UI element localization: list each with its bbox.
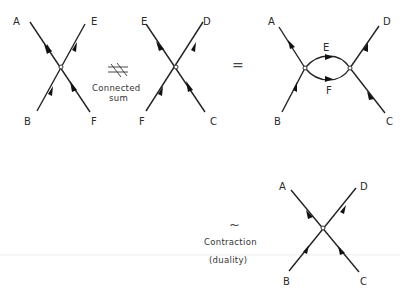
arrow-icon [325, 54, 333, 60]
contracted-vertex-diagram: A D B C [279, 181, 368, 287]
label-a: A [268, 16, 275, 27]
label-f: F [91, 116, 97, 127]
label-f: F [139, 116, 145, 127]
equals-sign: = [232, 57, 244, 73]
connected-sum-operator: Connected sum [92, 63, 140, 103]
vertex-node [303, 66, 307, 70]
arrow-icon [186, 81, 193, 92]
arrow-icon [191, 42, 196, 52]
label-d: D [383, 16, 391, 27]
vertex-diagram-1: A E B F [13, 16, 97, 127]
tilde-sign: ~ [229, 217, 240, 232]
vertex-node [348, 66, 352, 70]
connected-sum-label: Connected [92, 83, 140, 93]
label-e: E [91, 16, 97, 27]
label-a: A [279, 181, 286, 192]
arrow-icon [367, 91, 374, 100]
label-e: E [141, 16, 147, 27]
arrow-icon [288, 40, 295, 49]
duality-label: (duality) [209, 255, 247, 265]
feynman-diagram-figure: A E B F Connected sum E D F C = [0, 0, 400, 299]
connected-sum-label-2: sum [109, 93, 128, 103]
label-loop-f: F [326, 85, 332, 96]
vertex-node [59, 65, 63, 69]
label-b: B [24, 116, 31, 127]
label-c: C [360, 276, 367, 287]
label-loop-e: E [323, 42, 329, 53]
vertex-node [321, 226, 325, 230]
label-b: B [274, 116, 281, 127]
contraction-operator: ~ Contraction (duality) [204, 217, 257, 265]
arrow-icon [70, 81, 77, 92]
contraction-label: Contraction [204, 237, 257, 247]
label-d: D [203, 16, 211, 27]
label-b: B [283, 276, 290, 287]
vertex-diagram-2: E D F C [139, 16, 217, 127]
label-a: A [13, 16, 20, 27]
arrow-icon [325, 76, 333, 82]
label-d: D [360, 181, 368, 192]
label-c: C [386, 116, 393, 127]
loop-diagram: A D B C E F [268, 16, 393, 127]
label-c: C [210, 116, 217, 127]
vertex-node [174, 65, 178, 69]
